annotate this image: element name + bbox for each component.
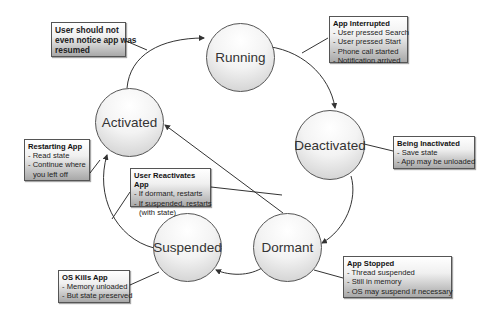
note-title: Being Inactivated (397, 139, 471, 148)
note-line: - If suspended, restarts (134, 199, 207, 208)
arrow-deactivated-to-dormant (322, 176, 353, 243)
note-title: App Interrupted (333, 19, 404, 28)
state-running: Running (206, 23, 275, 92)
note-title: User Reactivates App (134, 171, 207, 189)
note-line: (with state) (134, 208, 207, 217)
state-label: Dormant (262, 240, 314, 255)
note-line: - Phone call started (333, 47, 404, 56)
note-line: - If dormant, restarts (134, 189, 207, 198)
note-line: - Notification arrived (333, 56, 404, 65)
note-line: - Save state (397, 148, 471, 157)
note-line: - Still in memory (347, 277, 448, 286)
note-title: App Stopped (347, 259, 448, 268)
note-app-interrupted: App Interrupted - User pressed Search - … (329, 16, 408, 63)
note-line: - User pressed Search (333, 28, 404, 37)
note-app-stopped: App Stopped - Thread suspended - Still i… (343, 256, 452, 298)
note-line: - OS may suspend if necessary (347, 287, 448, 296)
state-dormant: Dormant (253, 213, 322, 282)
note-line: - Thread suspended (347, 268, 448, 277)
state-label: Running (215, 50, 265, 65)
note-line: - App may be unloaded (397, 157, 471, 166)
note-line: - User pressed Start (333, 37, 404, 46)
note-line: - Memory unloaded (62, 282, 126, 291)
note-being-inactivated: Being Inactivated - Save state - App may… (393, 136, 475, 169)
note-resumed: User should not even notice app was resu… (51, 22, 126, 57)
note-os-kills-app: OS Kills App - Memory unloaded - But sta… (58, 270, 130, 303)
state-deactivated: Deactivated (295, 110, 365, 180)
note-line: - Read state (28, 151, 86, 160)
state-label: Activated (102, 115, 158, 130)
state-suspended: Suspended (153, 213, 222, 282)
state-label: Deactivated (294, 138, 365, 153)
note-title: Restarting App (28, 142, 86, 151)
note-line: User should not (55, 25, 122, 35)
arrow-activated-to-running (127, 38, 204, 88)
note-line: even notice app was (55, 35, 122, 45)
note-restarting-app: Restarting App - Read state - Continue w… (24, 139, 90, 181)
note-line: - Continue where (28, 160, 86, 169)
arrow-dormant-to-suspended (216, 268, 262, 274)
note-line: resumed (55, 45, 122, 55)
note-user-reactivates-app: User Reactivates App - If dormant, resta… (130, 168, 211, 207)
note-line: - But state preserved (62, 291, 126, 300)
state-activated: Activated (95, 88, 164, 157)
state-label: Suspended (153, 240, 221, 255)
note-title: OS Kills App (62, 273, 126, 282)
note-line: you left off (28, 170, 86, 179)
